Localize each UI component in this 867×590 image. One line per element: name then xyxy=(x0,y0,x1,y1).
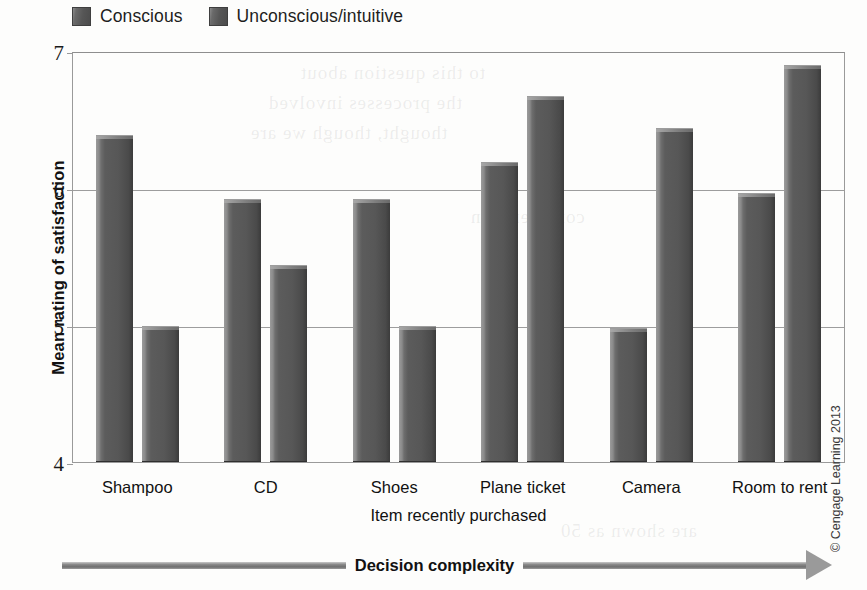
x-axis-category-label: Plane ticket xyxy=(459,464,588,497)
bar-group: Room to rent xyxy=(716,53,845,462)
y-axis-tick-label: 4 xyxy=(54,452,65,477)
y-axis-tick-label: 5 xyxy=(54,315,65,340)
legend-item-unconscious: Unconscious/intuitive xyxy=(209,6,404,27)
x-axis-category-label: Room to rent xyxy=(716,464,845,497)
copyright-credit: © Cengage Learning 2013 xyxy=(829,402,843,552)
bar-unconscious-intuitive xyxy=(270,265,307,462)
bar-group: Shoes xyxy=(330,53,459,462)
bar-conscious xyxy=(610,328,647,462)
y-axis-tick-label: 6 xyxy=(54,178,65,203)
arrow-shaft-right xyxy=(523,562,807,569)
bar-conscious xyxy=(96,135,133,462)
bar-unconscious-intuitive xyxy=(142,326,179,462)
bar-group: Camera xyxy=(587,53,716,462)
legend-item-conscious: Conscious xyxy=(72,6,183,27)
bar-conscious xyxy=(353,199,390,462)
bar-unconscious-intuitive xyxy=(784,65,821,462)
x-axis-category-label: Shampoo xyxy=(73,464,202,497)
bar-group: Shampoo xyxy=(73,53,202,462)
legend-swatch-icon xyxy=(72,7,91,26)
y-axis-title: Mean rating of satisfaction xyxy=(49,118,68,418)
arrow-head-icon xyxy=(806,550,832,580)
bar-group: Plane ticket xyxy=(459,53,588,462)
bar-unconscious-intuitive xyxy=(527,96,564,462)
bar-conscious xyxy=(224,199,261,462)
decision-complexity-arrow: Decision complexity xyxy=(62,548,832,582)
legend-label: Conscious xyxy=(100,6,183,27)
x-axis-category-label: CD xyxy=(202,464,331,497)
x-axis-title: Item recently purchased xyxy=(72,506,845,525)
x-axis-category-label: Camera xyxy=(587,464,716,497)
bar-group: CD xyxy=(202,53,331,462)
arrow-shaft-left xyxy=(62,562,346,569)
plot-area: 4567 ShampooCDShoesPlane ticketCameraRoo… xyxy=(72,52,845,463)
x-axis-category-label: Shoes xyxy=(330,464,459,497)
legend-swatch-icon xyxy=(209,7,228,26)
bar-unconscious-intuitive xyxy=(399,326,436,462)
bar-conscious xyxy=(738,193,775,462)
legend-label: Unconscious/intuitive xyxy=(237,6,404,27)
bar-groups: ShampooCDShoesPlane ticketCameraRoom to … xyxy=(73,53,844,462)
chart-page: to this question about the processes inv… xyxy=(0,0,867,590)
chart-legend: Conscious Unconscious/intuitive xyxy=(72,6,403,27)
bar-conscious xyxy=(481,162,518,462)
y-axis-tick-label: 7 xyxy=(54,41,65,66)
decision-complexity-label: Decision complexity xyxy=(346,556,524,575)
bar-unconscious-intuitive xyxy=(656,128,693,462)
